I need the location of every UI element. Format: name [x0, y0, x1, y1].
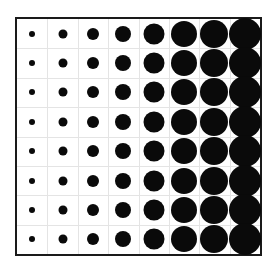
- dot: [29, 60, 35, 66]
- dot: [143, 170, 164, 191]
- dot: [229, 18, 261, 50]
- dot: [143, 82, 164, 103]
- dot: [58, 147, 67, 156]
- dot: [58, 29, 67, 38]
- diagram-frame: [15, 17, 262, 256]
- dot: [171, 138, 197, 164]
- dot: [87, 57, 99, 69]
- grid-line-horizontal: [17, 166, 260, 167]
- dot: [115, 231, 131, 247]
- grid-line-horizontal: [17, 195, 260, 196]
- dot: [200, 20, 228, 48]
- dot: [87, 145, 99, 157]
- dot: [29, 31, 35, 37]
- dot: [58, 235, 67, 244]
- dot: [229, 223, 261, 255]
- dot: [58, 176, 67, 185]
- dot: [229, 76, 261, 108]
- dot: [58, 205, 67, 214]
- dot: [87, 28, 99, 40]
- dot: [29, 207, 35, 213]
- grid-line-horizontal: [17, 78, 260, 79]
- dot: [115, 55, 131, 71]
- dot: [29, 119, 35, 125]
- dot: [58, 59, 67, 68]
- dot: [87, 86, 99, 98]
- dot: [87, 175, 99, 187]
- dot: [58, 88, 67, 97]
- dot: [171, 226, 197, 252]
- dot: [229, 47, 261, 79]
- dot: [171, 21, 197, 47]
- dot: [229, 165, 261, 197]
- dot: [229, 106, 261, 138]
- dot: [171, 197, 197, 223]
- dot: [29, 236, 35, 242]
- dot: [200, 167, 228, 195]
- dot: [29, 148, 35, 154]
- dot: [87, 233, 99, 245]
- dot: [29, 89, 35, 95]
- dot: [200, 196, 228, 224]
- dot: [29, 178, 35, 184]
- dot: [143, 199, 164, 220]
- dot: [200, 225, 228, 253]
- dot: [87, 116, 99, 128]
- dot: [115, 202, 131, 218]
- dot: [115, 143, 131, 159]
- dot: [171, 79, 197, 105]
- dot: [200, 137, 228, 165]
- dot: [115, 84, 131, 100]
- dot: [87, 204, 99, 216]
- grid-line-horizontal: [17, 225, 260, 226]
- dot: [171, 50, 197, 76]
- dot: [200, 108, 228, 136]
- dot: [171, 109, 197, 135]
- dot: [143, 53, 164, 74]
- grid-line-horizontal: [17, 137, 260, 138]
- dot: [200, 78, 228, 106]
- grid-line-horizontal: [17, 107, 260, 108]
- dot: [229, 135, 261, 167]
- dot: [115, 173, 131, 189]
- dot: [143, 23, 164, 44]
- dot: [58, 117, 67, 126]
- dot: [143, 229, 164, 250]
- dot: [143, 111, 164, 132]
- dot: [229, 194, 261, 226]
- dot: [143, 141, 164, 162]
- dot: [171, 168, 197, 194]
- dot: [115, 114, 131, 130]
- grid-line-horizontal: [17, 48, 260, 49]
- dot: [200, 49, 228, 77]
- dot: [115, 26, 131, 42]
